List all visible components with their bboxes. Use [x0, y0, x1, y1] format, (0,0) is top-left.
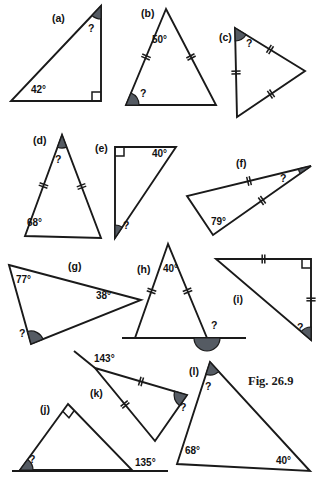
- figure-label-g: (g): [68, 260, 81, 272]
- shaded-angle-f-1: [298, 166, 311, 173]
- figure-label-b: (b): [141, 7, 154, 19]
- angle-label-l-1: 68°: [185, 445, 200, 456]
- angle-label-g-1: 38°: [96, 290, 111, 301]
- shaded-angle-g-2: [28, 331, 44, 344]
- unknown-angle-label-i-0: ?: [297, 321, 303, 333]
- angle-label-l-2: 40°: [276, 455, 291, 466]
- triangle-f: 79°?(f): [187, 157, 311, 235]
- triangle-l: ?68°40°(l): [177, 362, 310, 471]
- right-angle-marker-j: [63, 410, 75, 417]
- figure-label-k: (k): [90, 387, 103, 399]
- shaded-angle-h-1: [194, 338, 220, 351]
- unknown-angle-label-l-0: ?: [205, 380, 211, 392]
- figure-label-e: (e): [95, 142, 108, 154]
- angle-label-b-0: 50°: [152, 34, 167, 45]
- shaded-angle-c-0: [235, 28, 246, 41]
- unknown-angle-label-f-1: ?: [280, 172, 286, 184]
- triangle-e: 40°?(e): [95, 142, 176, 238]
- side-extension-k: [74, 351, 95, 368]
- figure-label-f: (f): [236, 157, 247, 169]
- unknown-angle-label-b-1: ?: [140, 87, 146, 99]
- figure-label-a: (a): [52, 12, 65, 24]
- tick-mark-f-0-0: [249, 176, 251, 185]
- angle-label-g-0: 77°: [16, 274, 31, 285]
- triangle-a: 42°?(a): [11, 6, 101, 101]
- shaded-angle-e-1: [115, 225, 122, 238]
- angle-label-h-0: 40°: [163, 263, 178, 274]
- angle-label-e-0: 40°: [152, 148, 167, 159]
- figure-label-i: (i): [233, 293, 243, 305]
- triangle-outline-h: [135, 244, 207, 338]
- figure-label-c: (c): [219, 31, 232, 43]
- figure-label-j: (j): [40, 403, 50, 415]
- angle-label-f-0: 79°: [211, 216, 226, 227]
- angle-label-k-0: 143°: [94, 353, 115, 364]
- figure-label-d: (d): [33, 134, 46, 146]
- right-angle-marker-e: [115, 147, 124, 156]
- shaded-angle-b-1: [126, 93, 139, 105]
- triangle-outline-j: [20, 404, 132, 470]
- figure-label-h: (h): [137, 263, 150, 275]
- angle-label-d-0: 68°: [27, 217, 42, 228]
- triangle-h: 40°?(h): [122, 244, 246, 351]
- unknown-angle-label-j-0: ?: [29, 453, 35, 465]
- triangle-g: 77°38°?(g): [9, 260, 141, 344]
- unknown-angle-label-h-1: ?: [211, 319, 217, 331]
- unknown-angle-label-k-1: ?: [180, 401, 186, 413]
- angle-label-a-0: 42°: [31, 84, 46, 95]
- triangle-b: 50°?(b): [126, 7, 216, 105]
- unknown-angle-label-g-2: ?: [19, 327, 25, 339]
- triangle-i: ?(i): [216, 254, 316, 340]
- unknown-angle-label-e-1: ?: [123, 219, 129, 231]
- triangle-c: ?(c): [219, 28, 305, 117]
- unknown-angle-label-c-0: ?: [246, 37, 252, 49]
- triangles-diagram: 42°?(a)50°?(b)?(c)68°?(d)40°?(e)79°?(f)7…: [0, 0, 320, 481]
- unknown-angle-label-a-1: ?: [88, 22, 94, 34]
- triangle-j: ?135°(j): [12, 403, 168, 471]
- unknown-angle-label-d-1: ?: [55, 153, 61, 165]
- triangle-d: 68°?(d): [25, 134, 101, 238]
- geometry-worksheet-figure: 42°?(a)50°?(b)?(c)68°?(d)40°?(e)79°?(f)7…: [0, 0, 320, 481]
- tick-mark-f-0-1: [247, 177, 249, 186]
- figure-label-l: (l): [189, 365, 199, 377]
- right-angle-marker-i: [302, 259, 311, 268]
- shaded-angle-a-1: [92, 6, 101, 19]
- right-angle-marker-a: [92, 92, 101, 101]
- angle-label-j-1: 135°: [135, 457, 156, 468]
